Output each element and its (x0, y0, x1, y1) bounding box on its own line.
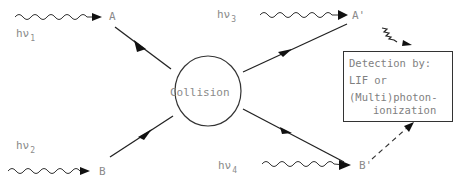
collision-label: Collision (170, 86, 230, 99)
label-hv4: hν4 (218, 160, 237, 171)
arrowhead-B-prime (280, 127, 292, 134)
label-particle-B-prime: B' (359, 160, 372, 171)
signal-wave-to-detection (382, 28, 397, 42)
detection-line-1: Detection by: (349, 55, 452, 72)
line-collision-to-B-prime (243, 109, 344, 162)
photon-arrowhead-hv1 (92, 13, 102, 21)
label-hv1: hν1 (16, 28, 35, 39)
label-particle-B: B (99, 166, 106, 177)
photon-wave-hv2 (8, 169, 85, 174)
collision-diagram: hν1 A hν2 B hν3 A' hν4 B' Collision Dete… (0, 0, 463, 181)
label-particle-A: A (109, 11, 116, 22)
label-hv3: hν3 (217, 9, 236, 20)
arrowhead-B (138, 129, 152, 140)
photon-arrowhead-hv3 (338, 10, 348, 20)
signal-arrowhead-to-detection (402, 40, 412, 46)
detection-box: Detection by: LIF or (Multi)photon- ioni… (343, 51, 453, 122)
arrowhead-A (134, 40, 146, 52)
photon-arrowhead-hv4 (339, 160, 351, 170)
arrowhead-A-prime (278, 49, 292, 57)
line-collision-to-A-prime (243, 24, 347, 72)
photon-arrowhead-hv2 (80, 167, 90, 175)
detection-line-2: LIF or (349, 72, 452, 89)
photon-wave-hv4 (262, 162, 345, 167)
label-hv2: hν2 (16, 140, 35, 151)
dashed-line-B-prime-to-detection (372, 127, 408, 159)
label-particle-A-prime: A' (352, 10, 365, 21)
dashed-arrowhead-to-detection (404, 122, 414, 132)
photon-wave-hv1 (15, 15, 98, 20)
photon-wave-hv3 (260, 13, 343, 18)
